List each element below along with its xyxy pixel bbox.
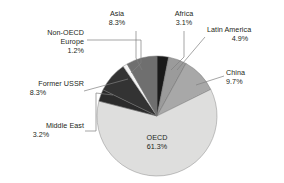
slice-label-africa: Africa 3.1%: [162, 9, 206, 27]
slice-label-latin-america-value: 4.9%: [207, 34, 273, 43]
slice-label-oecd-name: OECD: [130, 133, 184, 142]
slice-label-asia: Asia 8.3%: [97, 9, 137, 27]
slice-label-non-oecd-europe-name-2: Europe: [6, 37, 84, 46]
slice-label-china-value: 9.7%: [226, 77, 282, 86]
slice-label-latin-america: Latin America 4.9%: [207, 25, 283, 43]
slice-label-latin-america-name: Latin America: [207, 25, 283, 34]
slice-label-former-ussr-value: 8.3%: [2, 88, 74, 97]
pie-slices: [97, 56, 217, 176]
slice-label-africa-value: 3.1%: [162, 18, 206, 27]
slice-label-asia-name: Asia: [97, 9, 137, 18]
slice-label-oecd-value: 61.3%: [130, 142, 184, 151]
slice-label-non-oecd-europe-name: Non-OECD: [6, 28, 84, 37]
slice-label-asia-value: 8.3%: [97, 18, 137, 27]
slice-label-middle-east-name: Middle East: [6, 121, 84, 130]
slice-label-non-oecd-europe-value: 1.2%: [6, 46, 84, 55]
leader-line-latin-america: [177, 37, 205, 70]
slice-label-middle-east: Middle East 3.2%: [6, 121, 84, 139]
slice-label-non-oecd-europe: Non-OECD Europe 1.2%: [6, 28, 84, 55]
slice-label-former-ussr-name: Former USSR: [2, 79, 84, 88]
slice-label-africa-name: Africa: [162, 9, 206, 18]
slice-label-oecd: OECD 61.3%: [130, 133, 184, 151]
pie-chart-figure: Asia 8.3% Africa 3.1% Latin America 4.9%…: [0, 0, 284, 183]
slice-label-china-name: China: [226, 68, 282, 77]
slice-label-former-ussr: Former USSR 8.3%: [2, 79, 84, 97]
slice-label-china: China 9.7%: [226, 68, 282, 86]
slice-label-middle-east-value: 3.2%: [6, 130, 76, 139]
